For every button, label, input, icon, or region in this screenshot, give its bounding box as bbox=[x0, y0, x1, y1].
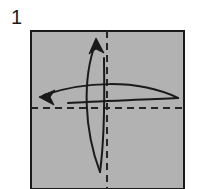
origami-step-figure: 1 bbox=[0, 0, 201, 189]
origami-diagram-canvas bbox=[0, 0, 201, 189]
